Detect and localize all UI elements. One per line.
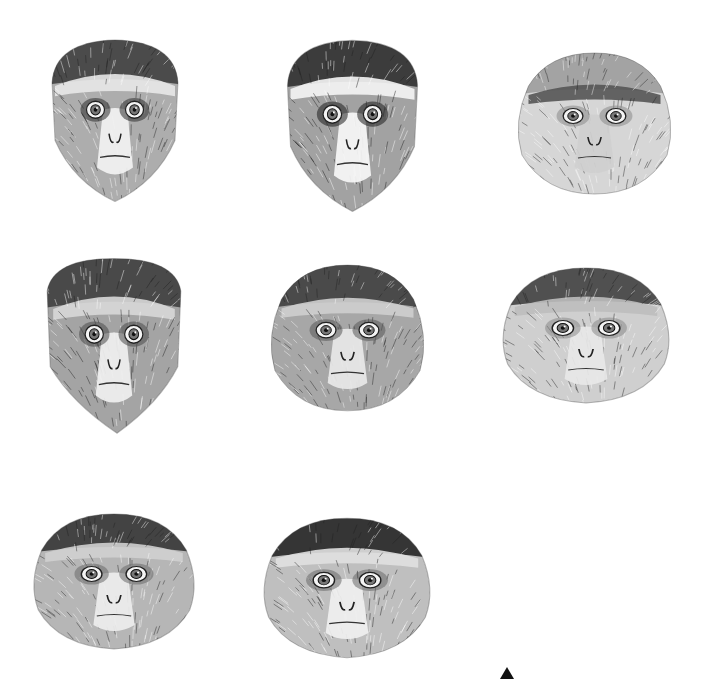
monkey-head-illustration [38, 255, 190, 435]
triangle-marker-icon [500, 667, 514, 679]
monkey-head-illustration [258, 512, 436, 667]
monkey-head-illustration [512, 50, 677, 200]
illustration-plate [0, 0, 707, 700]
monkey-head-illustration [265, 262, 430, 417]
monkey-head-illustration [40, 35, 190, 205]
monkey-head-illustration [497, 262, 675, 412]
monkey-head-illustration [275, 35, 430, 215]
monkey-head-illustration [28, 508, 200, 658]
